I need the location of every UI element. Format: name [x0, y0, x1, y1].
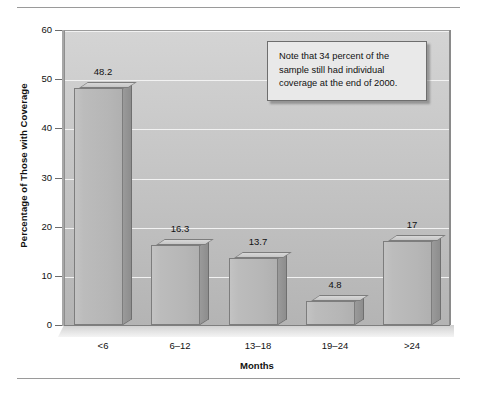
y-axis-tick: [55, 178, 62, 179]
bar-front-face: [229, 258, 278, 325]
bar: [306, 295, 364, 325]
y-axis-tick-label: 10: [30, 270, 52, 281]
plot-right-wall-edge: [449, 30, 451, 326]
y-axis-title: Percentage of Those with Coverage: [18, 56, 29, 276]
y-axis-tick: [55, 325, 62, 326]
note-callout-text: Note that 34 percent of the sample still…: [279, 50, 417, 91]
bar: [383, 235, 441, 325]
x-axis-category-label: >24: [367, 340, 457, 351]
bar-value-label: 17: [371, 219, 453, 230]
bar-front-face: [306, 301, 355, 325]
bar-front-face: [74, 88, 123, 325]
bar-side-face: [200, 239, 209, 325]
bar-front-face: [383, 241, 432, 325]
y-axis-tick-label: 40: [30, 122, 52, 133]
bar-chart: Percentage of Those with Coverage 010203…: [0, 0, 477, 393]
x-axis-category-label: 6–12: [135, 340, 225, 351]
y-axis-tick: [55, 128, 62, 129]
bar-value-label: 13.7: [217, 236, 299, 247]
bar-value-label: 4.8: [294, 279, 376, 290]
y-axis-tick: [55, 227, 62, 228]
gridline: [65, 31, 450, 32]
y-axis-tick-label: 50: [30, 73, 52, 84]
bar-value-label: 16.3: [139, 223, 221, 234]
y-axis-tick-label: 0: [30, 319, 52, 330]
bar: [74, 82, 132, 325]
bar: [151, 239, 209, 325]
bar-value-label: 48.2: [62, 66, 144, 77]
bar-side-face: [432, 236, 441, 325]
x-axis-title: Months: [64, 360, 450, 371]
figure-container: Percentage of Those with Coverage 010203…: [0, 0, 477, 393]
y-axis-tick: [55, 79, 62, 80]
y-axis-tick-label: 60: [30, 24, 52, 35]
y-axis-tick: [55, 30, 62, 31]
note-callout-box: Note that 34 percent of the sample still…: [267, 41, 427, 101]
y-axis-tick-label: 30: [30, 172, 52, 183]
bar-side-face: [278, 252, 287, 325]
y-axis-tick-label: 20: [30, 221, 52, 232]
bar: [229, 252, 287, 325]
bar-side-face: [123, 82, 132, 325]
bar-front-face: [151, 245, 200, 325]
plot-floor: [58, 325, 454, 337]
y-axis-tick: [55, 276, 62, 277]
x-axis-baseline: [64, 325, 450, 326]
